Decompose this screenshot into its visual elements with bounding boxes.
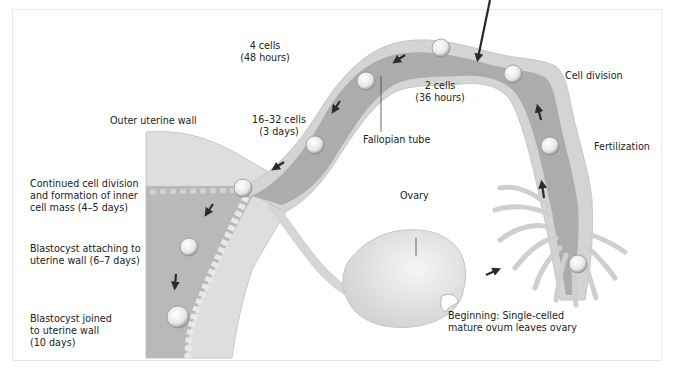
fertilized-cell [541, 137, 559, 155]
four-cell-stage [357, 72, 375, 90]
dividing-cell [504, 65, 522, 83]
label-blastocyst-joined: Blastocyst joined to uterine wall (10 da… [30, 313, 112, 349]
ovum-cell [569, 255, 587, 273]
label-continued-division: Continued cell division and formation of… [30, 178, 139, 214]
label-outer-uterine-wall: Outer uterine wall [110, 115, 197, 127]
joined-blastocyst [167, 306, 189, 328]
attaching-blastocyst [180, 238, 198, 256]
label-cell-division: Cell division [565, 70, 623, 82]
two-cell-stage [432, 39, 450, 57]
label-sixteen-cells: 16–32 cells (3 days) [244, 114, 314, 138]
arrow-icon [175, 274, 176, 286]
arrow-icon [486, 270, 497, 275]
label-fallopian-tube: Fallopian tube [363, 134, 430, 146]
label-ovary: Ovary [400, 190, 429, 202]
arrow-icon [478, 0, 490, 58]
label-two-cells: 2 cells (36 hours) [405, 80, 475, 104]
inner-mass-cell [234, 179, 252, 197]
label-fertilization: Fertilization [594, 141, 650, 153]
label-blastocyst-attaching: Blastocyst attaching to uterine wall (6–… [30, 243, 141, 267]
label-four-cells: 4 cells (48 hours) [230, 40, 300, 64]
morula-cell [306, 136, 324, 154]
label-beginning: Beginning: Single-celled mature ovum lea… [448, 310, 577, 334]
